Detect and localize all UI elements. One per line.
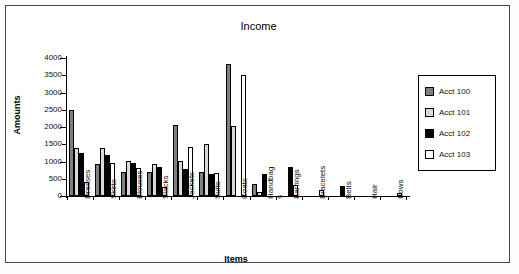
x-axis-tick: [223, 196, 224, 200]
y-axis-tick: [62, 144, 67, 145]
x-axis-tick: [197, 196, 198, 200]
y-axis-tick-label: 1000: [28, 158, 62, 166]
y-axis-tick: [62, 75, 67, 76]
x-axis-tick-label: Jackets: [188, 172, 196, 199]
chart-frame: Income Amounts 0500100015002000250030003…: [5, 5, 510, 263]
bar-group: [382, 58, 402, 196]
bar-group: [199, 58, 219, 196]
legend-swatch-icon: [425, 108, 434, 117]
x-axis-tick-label: Bows: [397, 179, 405, 199]
legend-item: Acct 102: [425, 123, 495, 144]
x-axis-tick-label: Slacks: [162, 175, 170, 199]
y-axis-tick-label: 0: [28, 192, 62, 200]
y-axis-tick-labels: 05001000150020002500300035004000: [22, 6, 62, 274]
x-axis-tick-label: Handbag: [267, 167, 275, 199]
y-axis-tick: [60, 93, 67, 94]
legend-swatch-icon: [425, 129, 434, 138]
y-axis-tick-label: 4000: [28, 54, 62, 62]
x-axis-tick-label: Earrings: [293, 169, 301, 199]
y-axis-tick-label: 500: [28, 175, 62, 183]
x-axis-tick: [276, 196, 277, 200]
x-axis-tick: [250, 196, 251, 200]
legend-item: Acct 101: [425, 102, 495, 123]
x-axis-tick: [145, 196, 146, 200]
x-axis-tick-label: Hair: [371, 184, 379, 199]
bar: [231, 126, 236, 196]
x-axis-title: Items: [156, 254, 316, 264]
y-axis-tick-label: 3000: [28, 89, 62, 97]
x-axis-tick-label: Dresses: [84, 170, 92, 199]
x-axis-tick-label: Blouses: [136, 171, 144, 199]
y-axis-tick-label: 2000: [28, 123, 62, 131]
legend-label: Acct 102: [439, 129, 470, 138]
x-axis-tick-label: Suits: [214, 181, 222, 199]
x-axis-tick-label: Coats: [241, 178, 249, 199]
chart-legend: Acct 100Acct 101Acct 102Acct 103: [418, 75, 496, 171]
legend-swatch-icon: [425, 150, 434, 159]
y-axis-tick: [62, 179, 67, 180]
legend-item: Acct 100: [425, 81, 495, 102]
bar-group: [330, 58, 350, 196]
x-axis-tick-label: Bracelets: [319, 166, 327, 199]
y-axis-tick-label: 2500: [28, 106, 62, 114]
y-axis-tick: [60, 196, 67, 197]
plot-area: [67, 58, 406, 196]
x-axis-tick-label: Belts: [345, 181, 353, 199]
x-axis-tick-label: Skirts: [110, 179, 118, 199]
y-axis-tick-label: 3500: [28, 71, 62, 79]
y-axis-title: Amounts: [12, 70, 22, 160]
y-axis-tick: [60, 127, 67, 128]
legend-swatch-icon: [425, 87, 434, 96]
bar-group: [356, 58, 376, 196]
y-axis-tick-label: 1500: [28, 140, 62, 148]
x-axis-tick: [380, 196, 381, 200]
chart-title: Income: [6, 20, 511, 32]
x-axis-tick: [93, 196, 94, 200]
x-axis-tick: [406, 196, 407, 200]
legend-item: Acct 103: [425, 144, 495, 165]
y-axis-tick: [60, 162, 67, 163]
x-axis-tick: [67, 196, 68, 200]
y-axis-tick: [60, 58, 67, 59]
legend-label: Acct 101: [439, 108, 470, 117]
bar-group: [226, 58, 246, 196]
x-axis-tick: [171, 196, 172, 200]
x-axis-tick: [328, 196, 329, 200]
scanned-page: Income Amounts 0500100015002000250030003…: [0, 0, 519, 274]
bar-group: [95, 58, 115, 196]
y-axis-tick: [62, 110, 67, 111]
legend-label: Acct 100: [439, 87, 470, 96]
legend-label: Acct 103: [439, 150, 470, 159]
x-axis-tick-label: s: [276, 195, 284, 199]
x-axis-tick: [119, 196, 120, 200]
x-axis-tick: [354, 196, 355, 200]
x-axis-tick: [302, 196, 303, 200]
